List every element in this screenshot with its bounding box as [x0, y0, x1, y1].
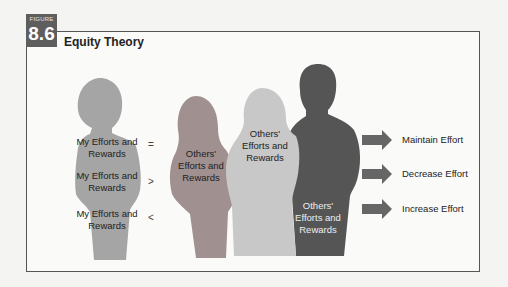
figure-label: FIGURE [26, 16, 57, 22]
others-label-2: Others' Efforts and Rewards [240, 128, 290, 164]
my-efforts-label-2: My Efforts and Rewards [72, 170, 142, 194]
left-person-silhouette [75, 78, 141, 260]
less-than-sign: < [148, 212, 154, 223]
outcome-increase: Increase Effort [402, 203, 464, 214]
arrow-icon [362, 130, 392, 150]
figure-number: 8.6 [26, 23, 57, 45]
greater-than-sign: > [148, 176, 154, 187]
my-efforts-label-3: My Efforts and Rewards [72, 208, 142, 232]
other-person-2-silhouette [226, 88, 299, 256]
outcome-maintain: Maintain Effort [402, 134, 463, 145]
arrow-icon [362, 164, 392, 184]
arrow-icon [362, 199, 392, 219]
my-efforts-label-1: My Efforts and Rewards [72, 136, 142, 160]
others-label-1: Others' Efforts and Rewards [172, 148, 230, 184]
outcome-decrease: Decrease Effort [402, 168, 468, 179]
equal-sign: = [148, 139, 154, 150]
figure-badge: FIGURE 8.6 [26, 14, 57, 47]
figure-title: Equity Theory [64, 35, 144, 49]
others-label-3: Others' Efforts and Rewards [292, 200, 344, 236]
